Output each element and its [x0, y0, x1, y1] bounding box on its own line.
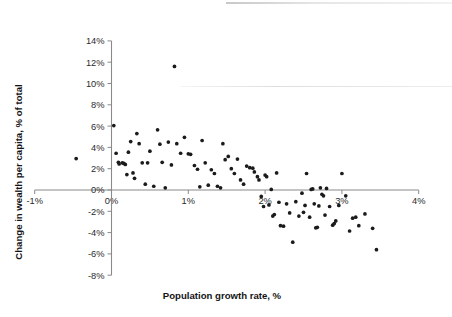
- data-point: [125, 173, 129, 177]
- data-point: [308, 215, 312, 219]
- data-point: [236, 157, 240, 161]
- y-tick-label: 6%: [91, 122, 104, 132]
- data-point: [294, 200, 298, 204]
- data-point: [317, 204, 321, 208]
- y-tick-label: -8%: [88, 271, 105, 281]
- x-axis-title: Population growth rate, %: [163, 290, 282, 301]
- data-point: [74, 157, 78, 161]
- x-tick-label: 3%: [335, 196, 348, 206]
- y-tick-label: 8%: [91, 100, 104, 110]
- x-tick-label: 4%: [412, 196, 425, 206]
- data-point: [213, 172, 217, 176]
- data-point: [303, 204, 307, 208]
- data-point: [221, 142, 225, 146]
- data-point: [129, 140, 133, 144]
- data-point: [354, 215, 358, 219]
- data-point: [285, 202, 289, 206]
- data-point: [269, 188, 273, 192]
- data-point: [267, 203, 271, 207]
- data-point: [265, 175, 269, 179]
- data-point: [114, 151, 118, 155]
- data-point: [315, 225, 319, 229]
- data-point: [275, 171, 279, 175]
- y-axis-title: Change in wealth per capita, % of total: [13, 84, 24, 259]
- data-point: [189, 152, 193, 156]
- data-point: [148, 149, 152, 153]
- data-point: [133, 176, 137, 180]
- data-point: [323, 213, 327, 217]
- scatter-chart: -1%0%1%2%3%4% 14%12%10%8%6%4%2%0%-2%-4%-…: [0, 0, 452, 317]
- data-point: [312, 202, 316, 206]
- data-point: [363, 212, 367, 216]
- data-point: [311, 187, 315, 191]
- data-point: [279, 224, 283, 228]
- data-point: [160, 160, 164, 164]
- data-point: [302, 211, 306, 215]
- data-point: [146, 161, 150, 165]
- data-point: [253, 170, 257, 174]
- data-point: [256, 175, 260, 179]
- data-point: [206, 183, 210, 187]
- data-point: [112, 124, 116, 128]
- data-point: [166, 140, 170, 144]
- data-point: [163, 186, 167, 190]
- y-tick-label: 14%: [86, 36, 105, 46]
- data-point: [248, 166, 252, 170]
- data-point: [135, 132, 139, 136]
- data-point: [375, 248, 379, 252]
- data-point: [334, 219, 338, 223]
- x-tick-label: -1%: [26, 196, 43, 206]
- data-point: [322, 194, 326, 198]
- data-point: [198, 185, 202, 189]
- data-point: [173, 65, 177, 69]
- data-point: [348, 229, 352, 233]
- y-tick-label: -6%: [88, 249, 105, 259]
- data-point: [193, 164, 197, 168]
- data-point: [288, 211, 292, 215]
- data-point: [242, 182, 246, 186]
- data-point: [183, 135, 187, 139]
- data-point: [257, 178, 261, 182]
- data-point: [209, 168, 213, 172]
- plot-area: -1%0%1%2%3%4% 14%12%10%8%6%4%2%0%-2%-4%-…: [0, 0, 452, 317]
- data-point: [229, 167, 233, 171]
- data-point: [127, 150, 131, 154]
- data-point: [259, 195, 263, 199]
- data-point: [297, 214, 301, 218]
- data-point: [203, 161, 207, 165]
- data-point: [319, 186, 323, 190]
- data-point: [179, 151, 183, 155]
- x-tick-label: 1%: [182, 196, 195, 206]
- data-point: [175, 142, 179, 146]
- data-point: [337, 204, 341, 208]
- data-point: [170, 163, 174, 167]
- data-point: [233, 172, 237, 176]
- y-tick-label: 12%: [86, 58, 105, 68]
- data-point: [277, 200, 281, 204]
- data-point: [200, 139, 204, 143]
- data-point: [219, 186, 223, 190]
- x-axis: -1%0%1%2%3%4%: [26, 190, 425, 206]
- y-tick-label: 4%: [91, 143, 104, 153]
- data-point: [196, 167, 200, 171]
- data-point: [223, 158, 227, 162]
- data-point: [305, 172, 309, 176]
- data-point: [291, 240, 295, 244]
- data-point: [137, 142, 141, 146]
- data-point: [239, 178, 243, 182]
- data-point: [226, 155, 230, 159]
- data-point: [262, 205, 266, 209]
- data-point: [371, 226, 375, 230]
- data-point: [340, 172, 344, 176]
- data-point: [357, 224, 361, 228]
- y-tick-label: -2%: [88, 207, 105, 217]
- y-axis: 14%12%10%8%6%4%2%0%-2%-4%-6%-8%: [86, 36, 112, 280]
- data-point: [131, 171, 135, 175]
- data-point: [140, 161, 144, 165]
- data-points: [74, 65, 378, 252]
- data-point: [251, 166, 255, 170]
- data-point: [325, 187, 329, 191]
- data-point: [156, 128, 160, 132]
- data-point: [152, 184, 156, 188]
- y-tick-label: 0%: [91, 185, 104, 195]
